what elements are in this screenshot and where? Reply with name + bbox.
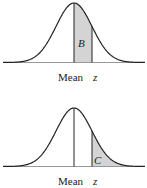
normal-curve-panel-b: B Mean z [0, 0, 147, 94]
z-label: z [93, 72, 97, 83]
region-label-c: C [94, 155, 101, 166]
z-label: z [93, 176, 97, 187]
normal-curve-panel-c: C Mean z [0, 94, 147, 188]
mean-label: Mean [58, 72, 83, 83]
region-label-b: B [78, 38, 85, 49]
normal-curve-c-graphic [0, 94, 147, 188]
shaded-region-b [74, 3, 92, 63]
mean-label: Mean [58, 176, 83, 187]
